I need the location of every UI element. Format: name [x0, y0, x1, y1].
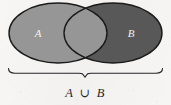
set-a-label: A [34, 27, 42, 39]
union-operator-icon: ∪ [80, 86, 90, 100]
underbrace [9, 69, 163, 78]
venn-diagram-canvas: A B A ∪ B [0, 0, 171, 105]
caption-left-operand: A [64, 86, 73, 100]
union-caption: A ∪ B [64, 86, 104, 100]
set-a-ellipse [9, 3, 107, 63]
caption-right-operand: B [97, 86, 105, 100]
set-b-label: B [128, 27, 135, 39]
venn-diagram-figure: A B A ∪ B [0, 0, 171, 105]
